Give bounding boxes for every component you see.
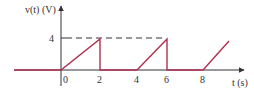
x-tick-label-4: 4 xyxy=(134,74,139,85)
y-axis-label: v(t) (V) xyxy=(25,4,56,16)
waveform-chart: v(t) (V) t (s) 4 0 2 4 6 8 xyxy=(0,0,254,92)
x-tick-label-2: 2 xyxy=(97,74,102,85)
y-tick-label-4: 4 xyxy=(49,33,54,44)
signal-waveform xyxy=(14,39,229,70)
x-tick-label-6: 6 xyxy=(164,74,169,85)
x-axis-label: t (s) xyxy=(232,77,248,89)
x-tick-label-0: 0 xyxy=(63,74,68,85)
chart-svg: v(t) (V) t (s) 4 0 2 4 6 8 xyxy=(0,0,254,92)
x-tick-label-8: 8 xyxy=(200,74,205,85)
